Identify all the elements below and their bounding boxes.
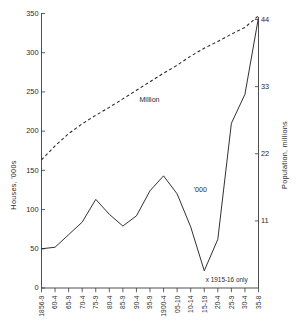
left-tick-label: 0	[34, 283, 38, 292]
series-line-Million	[42, 16, 259, 160]
x-tick-label: 25-9	[228, 295, 235, 309]
y2-axis-title: Population, millions	[280, 121, 289, 189]
series-labels: '000Million	[139, 96, 206, 194]
x-tick-label: 60-4	[51, 295, 58, 309]
left-tick-label: 100	[26, 205, 38, 214]
footnote-1915-16: x 1915-16 only	[206, 276, 249, 284]
left-tick-label: 300	[26, 48, 38, 57]
x-tick-label: 1856-9	[38, 295, 45, 316]
x-tick-label: 70-4	[79, 295, 86, 309]
x-tick-label: 35-8	[255, 295, 262, 309]
x-tick-label: 05-10	[174, 295, 181, 313]
right-tick-label: 11	[261, 216, 269, 225]
left-axis-ticks: 050100150200250300350	[26, 9, 45, 293]
line-chart: 050100150200250300350 11223344 1856-960-…	[0, 0, 300, 322]
x-tick-label: 95-9	[146, 295, 153, 309]
x-tick-label: 85-9	[119, 295, 126, 309]
series-layer	[42, 16, 259, 271]
x-tick-label: 75-9	[92, 295, 99, 309]
right-tick-label: 22	[261, 149, 269, 158]
x-tick-label: 30-4	[241, 295, 248, 309]
left-tick-label: 200	[26, 126, 38, 135]
right-tick-label: 44	[261, 15, 269, 24]
left-tick-label: 350	[26, 9, 38, 18]
chart-container: 050100150200250300350 11223344 1856-960-…	[0, 0, 300, 322]
left-tick-label: 250	[26, 87, 38, 96]
x-axis-ticks: 1856-960-465-970-475-980-485-990-495-919…	[38, 288, 262, 317]
annotation-layer: x 1915-16 only	[206, 276, 249, 284]
x-tick-label: 65-9	[65, 295, 72, 309]
x-tick-label: 20-4	[214, 295, 221, 309]
right-tick-label: 33	[261, 82, 269, 91]
x-tick-label: 1900-4	[160, 295, 167, 316]
right-axis-ticks: 11223344	[255, 15, 269, 225]
x-tick-label: 15-19	[201, 295, 208, 313]
x-tick-label: 90-4	[133, 295, 140, 309]
x-tick-label: 80-4	[106, 295, 113, 309]
y-axis-title: Houses, '000s	[9, 160, 18, 209]
series-label-Million: Million	[139, 96, 159, 104]
left-tick-label: 50	[30, 244, 38, 253]
left-tick-label: 150	[26, 166, 38, 175]
x-tick-label: 10-14	[187, 295, 194, 313]
series-line-000	[42, 17, 259, 270]
series-label-000: '000	[194, 186, 207, 194]
